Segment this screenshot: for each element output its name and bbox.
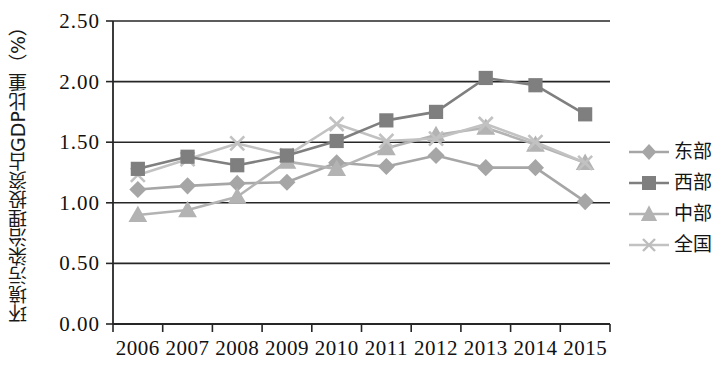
data-point-square (380, 114, 392, 126)
legend-item-quanguo[interactable]: 全国 (628, 229, 726, 260)
line-chart: 环境污染治理投资占GDP比重（%） 0.000.501.001.502.002.… (0, 0, 726, 367)
y-tick-label: 0.00 (59, 312, 100, 336)
data-point-diamond (181, 179, 195, 193)
data-point-diamond (479, 161, 493, 175)
legend-marker-triangle-icon (628, 204, 670, 224)
x-axis-tick-labels: 2006200720082009201020112012201320142015 (116, 336, 607, 360)
x-tick-label: 2013 (464, 336, 508, 360)
legend-label-quanguo: 全国 (670, 235, 712, 254)
data-point-x (330, 117, 344, 131)
data-point-diamond (429, 149, 443, 163)
data-point-diamond (131, 182, 145, 196)
data-point-square (231, 159, 243, 171)
data-series (130, 72, 592, 221)
y-tick-label: 2.50 (59, 9, 100, 33)
x-tick-label: 2014 (513, 336, 557, 360)
data-point-diamond (379, 159, 393, 173)
legend-label-dongbu: 东部 (670, 142, 712, 161)
x-tick-label: 2006 (116, 336, 160, 360)
data-point-square (579, 108, 591, 120)
plot-area: 0.000.501.001.502.002.50 200620072008200… (0, 0, 726, 367)
y-tick-label: 1.50 (59, 130, 100, 154)
x-tick-label: 2010 (315, 336, 359, 360)
x-tick-label: 2011 (365, 336, 408, 360)
x-axis-ticks (113, 324, 610, 332)
series-line (138, 78, 585, 169)
x-tick-label: 2008 (215, 336, 259, 360)
legend-marker-diamond-icon (628, 142, 670, 162)
data-point-square (281, 150, 293, 162)
legend-item-zhongbu[interactable]: 中部 (628, 198, 726, 229)
chart-legend: 东部 西部 中部 全国 (628, 136, 726, 260)
y-tick-label: 0.50 (59, 251, 100, 275)
data-point-diamond (280, 175, 294, 189)
series-line (138, 128, 585, 215)
y-axis-tick-labels: 0.000.501.001.502.002.50 (59, 9, 100, 336)
x-tick-label: 2012 (414, 336, 458, 360)
data-point-square (182, 151, 194, 163)
x-tick-label: 2009 (265, 336, 309, 360)
legend-label-xibu: 西部 (670, 173, 712, 192)
data-point-square (132, 163, 144, 175)
x-tick-label: 2007 (166, 336, 210, 360)
y-tick-label: 2.00 (59, 70, 100, 94)
series-中部 (130, 121, 592, 221)
data-point-square (529, 79, 541, 91)
legend-item-xibu[interactable]: 西部 (628, 167, 726, 198)
data-point-square (430, 106, 442, 118)
series-line (138, 156, 585, 202)
legend-marker-square-icon (628, 173, 670, 193)
legend-marker-x-icon (628, 235, 670, 255)
legend-label-zhongbu: 中部 (670, 204, 712, 223)
data-point-square (480, 72, 492, 84)
x-tick-label: 2015 (563, 336, 607, 360)
data-point-square (331, 135, 343, 147)
y-tick-label: 1.00 (59, 191, 100, 215)
legend-item-dongbu[interactable]: 东部 (628, 136, 726, 167)
series-全国 (131, 117, 592, 182)
